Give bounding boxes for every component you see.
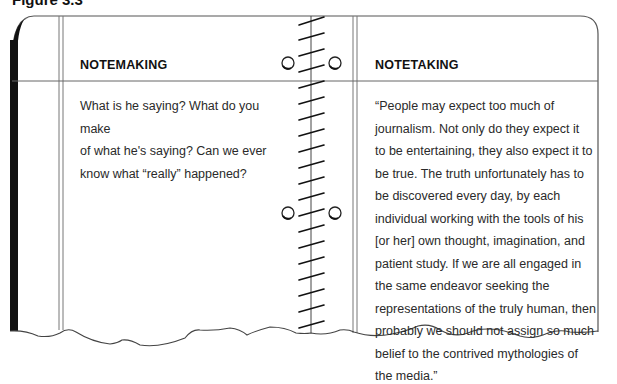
- notemaking-text: What is he saying? What do you make of w…: [80, 95, 285, 185]
- notemaking-heading: NOTEMAKING: [80, 58, 167, 72]
- notetaking-heading: NOTETAKING: [375, 58, 459, 72]
- notetaking-quote: “People may expect too much of journalis…: [375, 95, 600, 384]
